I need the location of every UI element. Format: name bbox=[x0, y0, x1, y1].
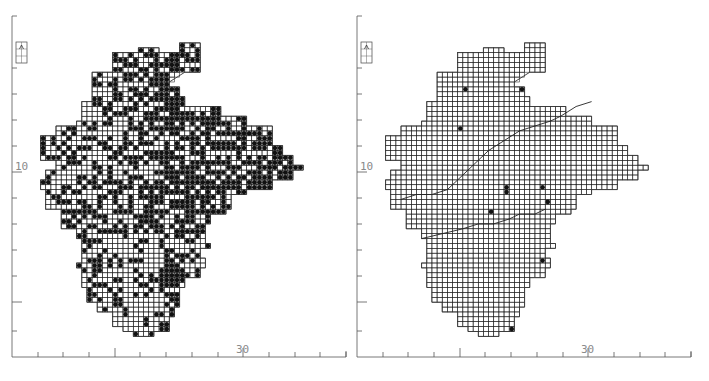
record-dot bbox=[98, 102, 103, 107]
grid-square bbox=[87, 283, 92, 288]
grid-square bbox=[442, 273, 447, 278]
grid-square bbox=[509, 58, 514, 63]
record-dot bbox=[159, 312, 164, 317]
grid-square bbox=[586, 136, 591, 141]
record-dot bbox=[98, 229, 103, 234]
grid-square bbox=[499, 283, 504, 288]
record-dot bbox=[118, 180, 123, 185]
record-dot bbox=[144, 219, 149, 224]
grid-square bbox=[504, 165, 509, 170]
grid-square bbox=[231, 116, 236, 121]
record-dot bbox=[128, 53, 133, 58]
grid-square bbox=[504, 180, 509, 185]
grid-square bbox=[432, 263, 437, 268]
grid-square bbox=[72, 219, 77, 224]
record-dot bbox=[139, 239, 144, 244]
record-dot bbox=[206, 209, 211, 214]
grid-square bbox=[247, 136, 252, 141]
grid-square bbox=[453, 258, 458, 263]
grid-square bbox=[520, 214, 525, 219]
grid-square bbox=[520, 283, 525, 288]
grid-square bbox=[581, 141, 586, 146]
grid-square bbox=[149, 146, 154, 151]
record-dot bbox=[216, 160, 221, 165]
grid-square bbox=[540, 268, 545, 273]
grid-square bbox=[561, 121, 566, 126]
grid-square bbox=[133, 136, 138, 141]
grid-square bbox=[190, 244, 195, 249]
grid-square bbox=[561, 170, 566, 175]
grid-square bbox=[489, 58, 494, 63]
grid-square bbox=[468, 327, 473, 332]
grid-square bbox=[82, 111, 87, 116]
grid-square bbox=[417, 141, 422, 146]
grid-square bbox=[113, 72, 118, 77]
grid-square bbox=[489, 278, 494, 283]
grid-square bbox=[102, 131, 107, 136]
grid-square bbox=[267, 155, 272, 160]
grid-square bbox=[566, 126, 571, 131]
record-dot bbox=[149, 141, 154, 146]
grid-square bbox=[478, 244, 483, 249]
grid-square bbox=[483, 327, 488, 332]
grid-square bbox=[483, 77, 488, 82]
grid-square bbox=[87, 219, 92, 224]
record-dot bbox=[82, 200, 87, 205]
grid-square bbox=[128, 151, 133, 156]
grid-square bbox=[154, 146, 159, 151]
grid-square bbox=[87, 131, 92, 136]
grid-square bbox=[453, 141, 458, 146]
record-dot bbox=[170, 263, 175, 268]
grid-square bbox=[509, 239, 514, 244]
record-dot bbox=[113, 200, 118, 205]
grid-square bbox=[520, 185, 525, 190]
grid-square bbox=[138, 87, 143, 92]
grid-square bbox=[422, 180, 427, 185]
grid-square bbox=[138, 58, 143, 63]
grid-square bbox=[154, 175, 159, 180]
record-dot bbox=[195, 224, 200, 229]
grid-square bbox=[411, 146, 416, 151]
grid-square bbox=[473, 170, 478, 175]
grid-square bbox=[468, 214, 473, 219]
grid-square bbox=[144, 248, 149, 253]
grid-square bbox=[113, 107, 118, 112]
grid-square bbox=[509, 322, 514, 327]
grid-square bbox=[102, 102, 107, 107]
record-dot bbox=[226, 146, 231, 151]
grid-square bbox=[432, 229, 437, 234]
record-dot bbox=[139, 190, 144, 195]
grid-square bbox=[128, 82, 133, 87]
record-dot bbox=[170, 200, 175, 205]
record-dot bbox=[231, 165, 236, 170]
record-dot bbox=[41, 146, 46, 151]
grid-square bbox=[432, 288, 437, 293]
grid-square bbox=[540, 214, 545, 219]
grid-square bbox=[458, 58, 463, 63]
grid-square bbox=[97, 126, 102, 131]
grid-square bbox=[195, 185, 200, 190]
grid-square bbox=[82, 224, 87, 229]
grid-square bbox=[185, 126, 190, 131]
record-dot bbox=[82, 229, 87, 234]
grid-square bbox=[499, 185, 504, 190]
record-dot bbox=[134, 332, 139, 337]
grid-square bbox=[509, 283, 514, 288]
grid-square bbox=[535, 48, 540, 53]
grid-square bbox=[406, 131, 411, 136]
grid-square bbox=[417, 170, 422, 175]
record-dot bbox=[221, 200, 226, 205]
grid-square bbox=[483, 307, 488, 312]
grid-square bbox=[46, 185, 51, 190]
record-dot bbox=[165, 273, 170, 278]
grid-square bbox=[566, 190, 571, 195]
grid-square bbox=[231, 160, 236, 165]
grid-square bbox=[432, 121, 437, 126]
grid-square bbox=[138, 229, 143, 234]
grid-square bbox=[571, 155, 576, 160]
grid-square bbox=[458, 155, 463, 160]
grid-square bbox=[144, 268, 149, 273]
grid-square bbox=[473, 322, 478, 327]
record-dot bbox=[159, 156, 164, 161]
grid-square bbox=[494, 327, 499, 332]
